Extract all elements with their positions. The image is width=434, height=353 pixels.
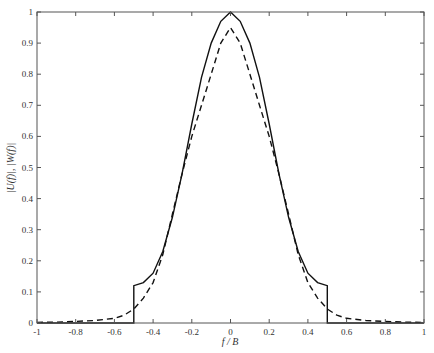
- x-tick-label: -1: [33, 327, 41, 337]
- x-tick-label: 0.8: [380, 327, 392, 337]
- y-tick-label: 0.8: [22, 69, 34, 79]
- y-tick-label: 0.1: [22, 287, 33, 297]
- x-tick-label: 1: [422, 327, 427, 337]
- x-axis-ticks: -1-0.8-0.6-0.4-0.200.20.40.60.81: [33, 12, 426, 337]
- plot-frame: [37, 12, 424, 323]
- y-axis-ticks: 00.10.20.30.40.50.60.70.80.91: [22, 7, 424, 328]
- y-tick-label: 0.7: [22, 100, 34, 110]
- y-tick-label: 0.9: [22, 38, 34, 48]
- chart-canvas: -1-0.8-0.6-0.4-0.200.20.40.60.81 00.10.2…: [0, 0, 434, 353]
- series-layer: [37, 12, 424, 323]
- x-tick-label: 0.4: [302, 327, 314, 337]
- series-w-dashed: [37, 28, 424, 323]
- x-tick-label: -0.4: [146, 327, 161, 337]
- y-axis-label: |U(f)|, |W(f)|: [5, 143, 17, 193]
- y-tick-label: 0: [29, 318, 34, 328]
- y-tick-label: 0.3: [22, 225, 34, 235]
- x-tick-label: -0.2: [185, 327, 199, 337]
- series-u-solid: [37, 12, 424, 323]
- x-axis-label: f / B: [222, 336, 239, 347]
- x-tick-label: 0.6: [341, 327, 353, 337]
- x-tick-label: 0.2: [264, 327, 275, 337]
- y-tick-label: 0.5: [22, 163, 34, 173]
- y-tick-label: 1: [29, 7, 34, 17]
- x-tick-label: -0.8: [69, 327, 84, 337]
- x-tick-label: -0.6: [107, 327, 122, 337]
- y-tick-label: 0.4: [22, 194, 34, 204]
- y-tick-label: 0.6: [22, 131, 34, 141]
- y-tick-label: 0.2: [22, 256, 33, 266]
